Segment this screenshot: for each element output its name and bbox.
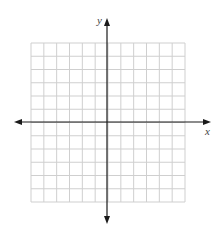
x-axis-label: x <box>204 125 210 137</box>
coordinate-plane: x y <box>0 0 224 236</box>
arrow-down-icon <box>104 216 110 224</box>
y-axis-label: y <box>96 14 102 26</box>
arrow-up-icon <box>104 18 110 26</box>
arrow-left-icon <box>14 119 22 125</box>
